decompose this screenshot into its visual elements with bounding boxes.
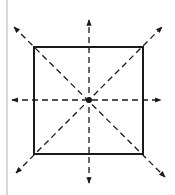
center-point	[86, 97, 92, 103]
symmetry-diagram	[0, 0, 175, 195]
